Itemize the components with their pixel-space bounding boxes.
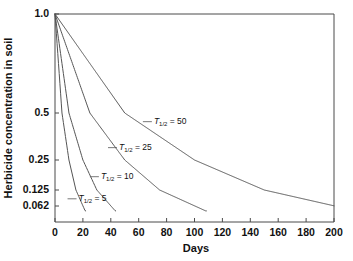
x-tick-label: 140 — [242, 226, 260, 238]
y-tick-label: 0.062 — [23, 199, 49, 211]
x-tick-label: 180 — [297, 226, 315, 238]
y-tick-label: 0.125 — [23, 183, 49, 195]
series-label: T1/2 = 10 — [101, 171, 134, 181]
y-tick-label: 1.0 — [34, 7, 49, 19]
series-label: T1/2 = 5 — [79, 193, 107, 203]
x-tick-label: 200 — [325, 226, 343, 238]
y-axis-title: Herbicide concentration in soil — [2, 38, 14, 199]
x-tick-label: 60 — [133, 226, 145, 238]
series-label: T1/2 = 50 — [154, 116, 187, 126]
herbicide-decay-chart: 1.00.50.250.1250.062 0204060801001201401… — [0, 0, 353, 261]
x-tick-label: 120 — [214, 226, 232, 238]
y-tick-label: 0.25 — [29, 153, 50, 165]
x-tick-label: 0 — [52, 226, 58, 238]
x-tick-label: 160 — [269, 226, 287, 238]
x-tick-label: 20 — [77, 226, 89, 238]
x-axis-title: Days — [183, 242, 209, 254]
chart-figure: 1.00.50.250.1250.062 0204060801001201401… — [0, 0, 353, 261]
series-label: T1/2 = 25 — [119, 142, 152, 152]
x-tick-label: 40 — [105, 226, 117, 238]
x-tick-label: 100 — [186, 226, 204, 238]
x-tick-label: 80 — [161, 226, 173, 238]
y-tick-label: 0.5 — [34, 106, 49, 118]
